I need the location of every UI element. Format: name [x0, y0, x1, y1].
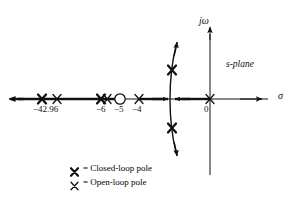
open-loop-zero-marker	[115, 94, 125, 104]
tick-label-neg4: −4	[132, 105, 142, 114]
root-locus-figure: σ jω s-plane 0 −42.96 −6 −5 −4 = Closed-…	[0, 0, 303, 204]
legend-item-closed-loop-pole: = Closed-loop pole	[70, 163, 152, 173]
tick-label-neg6: −6	[96, 105, 106, 114]
open-loop-pole-icon	[70, 177, 79, 187]
s-plane-label: s-plane	[226, 60, 254, 70]
legend-label-closed-loop-pole: = Closed-loop pole	[83, 163, 152, 173]
sigma-axis-label: σ	[278, 91, 283, 101]
closed-loop-pole-icon	[70, 163, 79, 173]
jomega-axis-label: jω	[199, 16, 209, 26]
legend-label-open-loop-pole: = Open-loop pole	[83, 177, 147, 187]
legend-item-open-loop-pole: = Open-loop pole	[70, 177, 147, 187]
origin-tick-label: 0	[204, 105, 209, 114]
tick-label-neg42-96: −42.96	[33, 105, 58, 114]
root-locus-canvas	[0, 0, 303, 204]
tick-label-neg5: −5	[114, 105, 124, 114]
